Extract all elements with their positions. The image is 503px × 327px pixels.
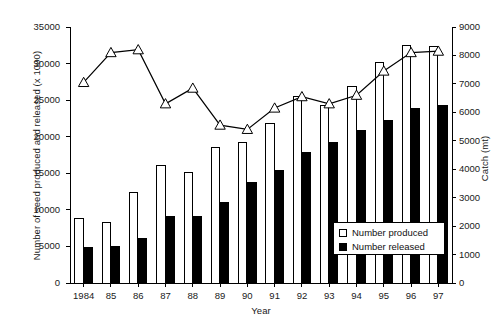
- y-tick-right-6000: 6000: [459, 106, 503, 117]
- bar-released-86: [139, 239, 147, 283]
- y-tick-left-25000: 25000: [14, 94, 60, 105]
- y-tick-right-1000: 1000: [459, 249, 503, 260]
- bar-released-1984: [84, 247, 92, 283]
- bar-released-87: [166, 217, 174, 283]
- catch-marker-89: [215, 120, 225, 129]
- bar-released-95: [384, 121, 392, 283]
- y-tick-right-5000: 5000: [459, 135, 503, 146]
- y-tick-left-0: 0: [14, 277, 60, 288]
- bar-released-92: [302, 153, 310, 283]
- bar-produced-92: [293, 96, 301, 283]
- catch-marker-88: [188, 83, 198, 92]
- chart-legend: Number produced Number released: [333, 222, 445, 255]
- bar-released-85: [111, 247, 119, 283]
- y-tick-left-35000: 35000: [14, 21, 60, 32]
- bar-produced-1984: [75, 219, 83, 283]
- chart-figure: Number of seed produced and released (x …: [0, 0, 503, 327]
- y-tick-left-30000: 30000: [14, 58, 60, 69]
- bar-released-88: [193, 217, 201, 283]
- y-tick-right-9000: 9000: [459, 21, 503, 32]
- legend-item-number-released: Number released: [339, 240, 440, 253]
- legend-item-number-produced: Number produced: [339, 226, 440, 239]
- catch-line-series: [84, 50, 439, 130]
- y-tick-left-15000: 15000: [14, 167, 60, 178]
- bar-produced-85: [102, 222, 110, 283]
- x-tick-97: 97: [416, 290, 460, 301]
- bar-produced-89: [211, 148, 219, 283]
- y-axis-right-title: Catch (mt): [479, 79, 490, 239]
- chart-plot-area: [0, 0, 503, 327]
- bar-released-90: [248, 182, 256, 283]
- y-tick-left-20000: 20000: [14, 131, 60, 142]
- bar-released-94: [357, 131, 365, 283]
- catch-marker-86: [133, 45, 143, 54]
- legend-label-produced: Number produced: [352, 228, 428, 238]
- y-tick-right-8000: 8000: [459, 49, 503, 60]
- y-tick-left-10000: 10000: [14, 204, 60, 215]
- catch-marker-91: [269, 103, 279, 112]
- bar-released-97: [439, 106, 447, 283]
- catch-marker-87: [160, 99, 170, 108]
- y-tick-right-7000: 7000: [459, 78, 503, 89]
- bar-produced-90: [239, 143, 247, 283]
- y-tick-right-2000: 2000: [459, 220, 503, 231]
- bar-produced-93: [321, 106, 329, 283]
- filled-square-icon: [339, 243, 347, 251]
- bar-released-96: [412, 109, 420, 283]
- y-tick-right-3000: 3000: [459, 192, 503, 203]
- bar-produced-87: [157, 166, 165, 283]
- bar-produced-86: [130, 192, 138, 283]
- x-axis-title: Year: [70, 305, 452, 316]
- bar-released-93: [330, 143, 338, 283]
- bar-produced-91: [266, 124, 274, 283]
- bar-released-91: [275, 170, 283, 283]
- y-tick-right-0: 0: [459, 277, 503, 288]
- legend-label-released: Number released: [352, 242, 425, 252]
- bar-released-89: [221, 203, 229, 283]
- bar-produced-88: [184, 173, 192, 283]
- y-tick-left-5000: 5000: [14, 240, 60, 251]
- y-tick-right-4000: 4000: [459, 163, 503, 174]
- open-square-icon: [339, 229, 347, 237]
